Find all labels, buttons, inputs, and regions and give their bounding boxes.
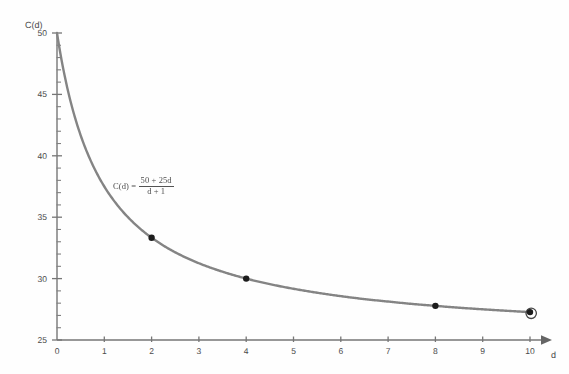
x-axis-tick-label: 10 — [518, 346, 542, 356]
chart-canvas — [0, 0, 569, 374]
x-axis-tick-label: 4 — [234, 346, 258, 356]
y-axis-tick-label: 40 — [19, 151, 47, 161]
formula-left-hand-side: C(d) = — [113, 181, 136, 191]
x-axis-tick-label: 9 — [471, 346, 495, 356]
x-axis-arrow-icon — [541, 335, 552, 345]
data-point-marker — [148, 235, 154, 241]
data-point-marker — [527, 309, 533, 315]
x-axis-tick-label: 2 — [140, 346, 164, 356]
y-axis-tick-label: 35 — [19, 212, 47, 222]
x-axis-tick-label: 0 — [45, 346, 69, 356]
formula-denominator: d + 1 — [145, 187, 167, 197]
x-axis-tick-label: 7 — [376, 346, 400, 356]
function-formula-annotation: C(d) = 50 + 25d d + 1 — [113, 176, 174, 196]
y-axis-tick-label: 50 — [19, 28, 47, 38]
data-point-marker — [432, 303, 438, 309]
formula-numerator: 50 + 25d — [139, 176, 174, 186]
y-axis-tick-label: 30 — [19, 274, 47, 284]
x-axis-tick-label: 1 — [92, 346, 116, 356]
x-axis-tick-label: 6 — [329, 346, 353, 356]
data-point-marker — [243, 275, 249, 281]
chart-figure: C(d) d 253035404550 012345678910 C(d) = … — [0, 0, 569, 374]
y-axis-tick-label: 45 — [19, 89, 47, 99]
y-axis-tick-label: 25 — [19, 335, 47, 345]
data-point-markers — [148, 235, 536, 319]
x-axis-tick-label: 8 — [423, 346, 447, 356]
cost-function-curve — [57, 33, 530, 312]
x-axis-ticks — [104, 337, 530, 343]
x-axis-tick-label: 5 — [282, 346, 306, 356]
x-axis-tick-label: 3 — [187, 346, 211, 356]
x-axis-label: d — [551, 350, 556, 360]
formula-fraction: 50 + 25d d + 1 — [139, 176, 174, 196]
